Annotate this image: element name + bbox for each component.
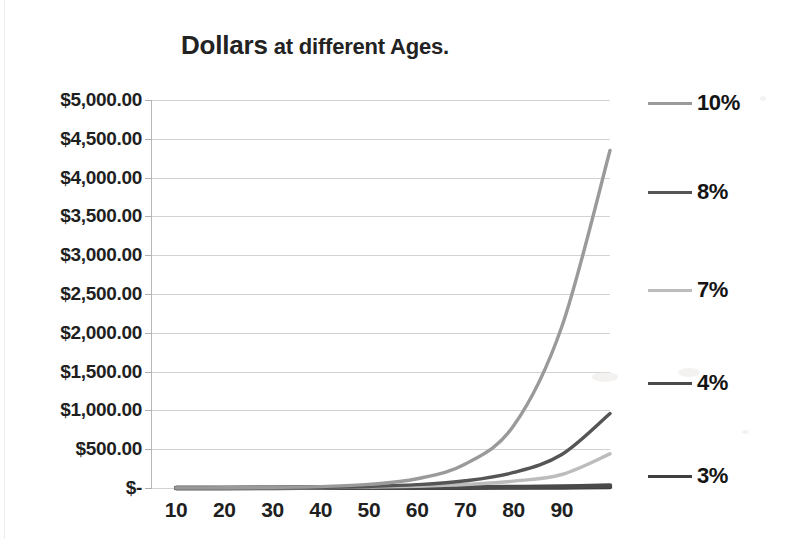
- legend-label: 4%: [697, 370, 728, 396]
- x-axis-label: 90: [550, 498, 573, 522]
- x-axis-label: 60: [406, 498, 429, 522]
- scan-artifact: [760, 96, 766, 101]
- chart-title: Dollars at different Ages.: [0, 30, 630, 61]
- y-axis-label: $2,000.00: [60, 322, 142, 344]
- series-line-10pct: [176, 150, 610, 487]
- y-axis-tick: [145, 139, 152, 140]
- y-axis-tick: [145, 178, 152, 179]
- y-axis-tick: [145, 488, 152, 489]
- y-axis-tick: [145, 333, 152, 334]
- y-axis-label: $3,500.00: [60, 205, 142, 227]
- legend-line-swatch: [648, 191, 692, 194]
- legend-line-swatch: [648, 289, 692, 292]
- y-axis-tick: [145, 372, 152, 373]
- legend-label: 8%: [697, 179, 728, 205]
- x-axis-label: 40: [309, 498, 332, 522]
- x-axis-label: 20: [213, 498, 236, 522]
- y-axis-label: $500.00: [75, 438, 142, 460]
- y-axis-label: $-: [126, 477, 142, 499]
- legend-label: 10%: [697, 90, 740, 116]
- y-axis-label: $4,500.00: [60, 128, 142, 150]
- legend-line-swatch: [648, 382, 692, 385]
- y-axis-label: $5,000.00: [60, 89, 142, 111]
- chart-title-rest: at different Ages.: [268, 34, 449, 59]
- y-axis-tick: [145, 100, 152, 101]
- x-axis-label: 80: [502, 498, 525, 522]
- y-axis-tick: [145, 449, 152, 450]
- legend-label: 3%: [697, 463, 728, 489]
- legend-item-8pct[interactable]: 8%: [648, 179, 728, 205]
- legend-item-10pct[interactable]: 10%: [648, 90, 740, 116]
- y-axis-label: $1,500.00: [60, 361, 142, 383]
- page-margin-line: [4, 0, 5, 539]
- x-axis-label: 70: [454, 498, 477, 522]
- chart-title-main: Dollars: [181, 30, 268, 60]
- y-axis-label: $3,000.00: [60, 244, 142, 266]
- x-axis-label: 30: [261, 498, 284, 522]
- scan-artifact: [592, 372, 618, 382]
- x-axis-label: 50: [358, 498, 381, 522]
- y-axis-label: $4,000.00: [60, 167, 142, 189]
- legend-item-7pct[interactable]: 7%: [648, 277, 728, 303]
- y-axis-tick: [145, 216, 152, 217]
- y-axis-label: $1,000.00: [60, 399, 142, 421]
- y-axis-tick: [145, 410, 152, 411]
- y-axis-tick: [145, 255, 152, 256]
- scan-artifact: [742, 430, 749, 434]
- legend-line-swatch: [648, 475, 692, 478]
- series-lines: [152, 100, 610, 488]
- y-axis-label: $2,500.00: [60, 283, 142, 305]
- scan-artifact: [678, 368, 700, 377]
- chart-container: Dollars at different Ages. $5,000.00$4,5…: [0, 0, 812, 539]
- x-axis-label: 10: [165, 498, 188, 522]
- y-axis-tick: [145, 294, 152, 295]
- x-axis-labels: 102030405060708090: [152, 498, 610, 528]
- y-axis-labels: $5,000.00$4,500.00$4,000.00$3,500.00$3,0…: [8, 100, 142, 488]
- chart-legend: 10%8%7%4%3%: [648, 80, 812, 500]
- legend-label: 7%: [697, 277, 728, 303]
- legend-line-swatch: [648, 102, 692, 105]
- legend-item-3pct[interactable]: 3%: [648, 463, 728, 489]
- plot-area: [152, 100, 610, 488]
